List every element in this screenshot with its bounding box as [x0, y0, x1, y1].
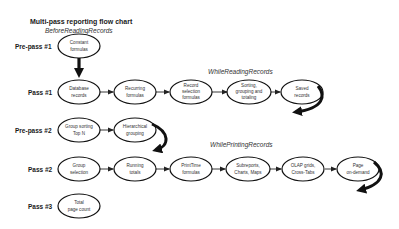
svg-text:selection: selection — [70, 170, 89, 175]
node-group-sorting-top-n: Group sorting Top N — [58, 118, 100, 142]
node-olap-grids-cross-tabs: OLAP grids, Cross-Tabs — [282, 157, 324, 181]
svg-text:PrintTime: PrintTime — [181, 163, 201, 168]
phase-while-reading: WhileReadingRecords — [208, 68, 273, 76]
node-sorting-grouping-totaling: Sorting, grouping and totaling — [227, 80, 271, 104]
svg-text:Sorting,: Sorting, — [241, 83, 257, 88]
flow-chart: Multi-pass reporting flow chart BeforeRe… — [0, 0, 399, 229]
svg-text:formulas: formulas — [182, 95, 200, 100]
svg-text:Page: Page — [353, 163, 364, 168]
node-recurring-formulas: Recurring formulas — [114, 80, 156, 104]
svg-text:page count: page count — [68, 207, 91, 212]
svg-text:Total: Total — [74, 200, 84, 205]
svg-text:Group sorting: Group sorting — [65, 124, 93, 129]
svg-text:formulas: formulas — [182, 170, 200, 175]
node-total-page-count: Total page count — [58, 194, 100, 218]
svg-text:records: records — [71, 93, 87, 98]
svg-text:Constant: Constant — [70, 40, 89, 45]
svg-text:Top N: Top N — [73, 131, 85, 136]
node-printtime-formulas: PrintTime formulas — [170, 157, 212, 181]
svg-text:Group: Group — [73, 163, 86, 168]
row-label-pre-pass-1: Pre-pass #1 — [15, 43, 52, 51]
svg-text:totals: totals — [130, 170, 142, 175]
svg-text:OLAP grids,: OLAP grids, — [291, 163, 316, 168]
svg-text:Database: Database — [69, 86, 89, 91]
svg-text:Charts, Maps: Charts, Maps — [234, 170, 262, 175]
node-constant-formulas: Constant formulas — [58, 34, 100, 58]
svg-text:grouping and: grouping and — [236, 89, 263, 94]
phase-while-printing: WhilePrintingRecords — [210, 141, 273, 149]
svg-text:Recurring: Recurring — [125, 86, 145, 91]
chart-title: Multi-pass reporting flow chart — [30, 18, 133, 26]
node-saved-records: Saved records — [281, 80, 323, 104]
svg-text:formulas: formulas — [126, 93, 144, 98]
svg-text:selection: selection — [182, 89, 201, 94]
node-hierarchical-grouping: Hierarchical grouping — [114, 118, 156, 142]
svg-text:Subreports,: Subreports, — [236, 163, 260, 168]
svg-text:formulas: formulas — [70, 47, 88, 52]
node-database-records: Database records — [58, 80, 100, 104]
svg-text:records: records — [294, 93, 310, 98]
svg-text:Running: Running — [126, 163, 144, 168]
svg-text:on-demand: on-demand — [346, 170, 370, 175]
svg-text:Saved: Saved — [295, 86, 308, 91]
row-label-pass-2: Pass #2 — [28, 166, 53, 173]
svg-text:totaling: totaling — [242, 95, 257, 100]
svg-text:Cross-Tabs: Cross-Tabs — [291, 170, 315, 175]
svg-text:Hierarchical: Hierarchical — [123, 124, 147, 129]
node-subreports-charts-maps: Subreports, Charts, Maps — [226, 157, 270, 181]
row-label-pass-3: Pass #3 — [28, 203, 53, 210]
row-label-pre-pass-2: Pre-pass #2 — [15, 127, 52, 135]
node-group-selection: Group selection — [58, 157, 100, 181]
svg-text:Record: Record — [184, 83, 199, 88]
node-record-selection-formulas: Record selection formulas — [170, 80, 212, 104]
row-label-pass-1: Pass #1 — [28, 89, 53, 96]
svg-text:grouping: grouping — [126, 131, 144, 136]
node-running-totals: Running totals — [114, 157, 156, 181]
node-page-on-demand: Page on-demand — [337, 157, 379, 181]
